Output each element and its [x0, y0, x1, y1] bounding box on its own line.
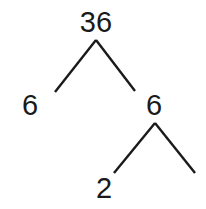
node-right: 6: [146, 91, 162, 120]
edge-right-left: [114, 123, 155, 173]
factor-tree: 36 6 6 2: [0, 0, 206, 209]
edge-root-left: [55, 40, 96, 92]
node-right-left: 2: [96, 174, 112, 203]
node-root: 36: [80, 8, 112, 37]
node-left: 6: [22, 91, 38, 120]
edge-root-right: [96, 40, 135, 91]
edge-right-right: [155, 123, 195, 173]
